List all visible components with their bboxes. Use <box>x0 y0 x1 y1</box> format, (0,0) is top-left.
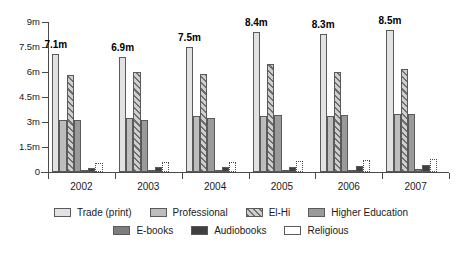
bar-trade-print <box>320 34 327 172</box>
legend-item[interactable]: El-Hi <box>246 207 291 218</box>
legend-item-label: Religious <box>307 225 348 236</box>
bar-value-label: 7.5m <box>173 32 205 43</box>
legend-item[interactable]: Trade (print) <box>54 207 132 218</box>
bar-higher-education <box>408 114 415 172</box>
bar-el-hi <box>67 75 74 172</box>
legend-row-secondary: E-booksAudiobooksReligious <box>0 222 462 239</box>
bar-value-label: 8.4m <box>240 17 272 28</box>
x-axis-tick-label: 2005 <box>256 181 308 192</box>
legend-item-label: E-books <box>136 225 173 236</box>
x-axis-line <box>41 172 449 173</box>
bar-professional <box>193 116 200 172</box>
x-axis-tick <box>249 173 250 179</box>
bar-religious <box>430 159 437 172</box>
bar-professional <box>394 114 401 172</box>
legend-item[interactable]: E-books <box>113 225 173 236</box>
legend-item[interactable]: Audiobooks <box>191 225 266 236</box>
bar-el-hi <box>200 74 207 172</box>
legend-item-label: Higher Education <box>331 207 408 218</box>
bar-trade-print <box>119 57 126 172</box>
bar-audiobooks <box>422 165 429 172</box>
bar-higher-education <box>74 120 81 172</box>
legend-item-label: Professional <box>173 207 228 218</box>
legend-item-label: El-Hi <box>269 207 291 218</box>
bar-religious <box>296 161 303 172</box>
legend-item[interactable]: Religious <box>284 225 348 236</box>
bar-ebooks <box>148 170 155 172</box>
legend-item-label: Audiobooks <box>214 225 266 236</box>
chart-legend: Trade (print)ProfessionalEl-HiHigher Edu… <box>0 200 462 250</box>
plot-area: 01.5m3m4.5m6m7.5m9m 20022003200420052006… <box>0 0 462 196</box>
elhi-swatch <box>246 208 263 217</box>
legend-row-primary: Trade (print)ProfessionalEl-HiHigher Edu… <box>0 204 462 221</box>
bar-chart: 01.5m3m4.5m6m7.5m9m 20022003200420052006… <box>0 0 462 253</box>
x-axis-tick <box>382 173 383 179</box>
trade-swatch <box>54 208 71 217</box>
bar-value-label: 8.5m <box>374 15 406 26</box>
x-axis-tick-label: 2007 <box>390 181 442 192</box>
x-axis-tick <box>182 173 183 179</box>
x-axis-tick <box>449 173 450 179</box>
bar-trade-print <box>52 54 59 172</box>
bar-value-label: 6.9m <box>107 42 139 53</box>
bar-audiobooks <box>356 166 363 172</box>
bar-higher-education <box>207 118 214 172</box>
bar-audiobooks <box>222 167 229 172</box>
legend-item[interactable]: Higher Education <box>308 207 408 218</box>
x-axis-tick-label: 2003 <box>122 181 174 192</box>
professional-swatch <box>150 208 167 217</box>
religious-swatch <box>284 226 301 235</box>
bar-el-hi <box>334 72 341 172</box>
bar-religious <box>162 162 169 172</box>
x-axis-tick <box>315 173 316 179</box>
bar-religious <box>95 163 102 172</box>
bar-professional <box>327 116 334 172</box>
bar-audiobooks <box>289 167 296 172</box>
x-axis-tick <box>115 173 116 179</box>
bar-trade-print <box>186 47 193 172</box>
bar-higher-education <box>274 115 281 172</box>
bar-higher-education <box>341 115 348 172</box>
bar-value-label: 8.3m <box>307 19 339 30</box>
bar-ebooks <box>81 170 88 172</box>
bar-ebooks <box>348 170 355 173</box>
x-axis-tick <box>48 173 49 179</box>
bar-professional <box>260 116 267 172</box>
bar-religious <box>229 162 236 172</box>
bar-audiobooks <box>155 167 162 172</box>
bar-religious <box>363 160 370 172</box>
bar-ebooks <box>215 170 222 172</box>
x-axis-tick-label: 2002 <box>55 181 107 192</box>
bar-professional <box>59 120 66 173</box>
higher-education-swatch <box>308 208 325 217</box>
x-axis-tick-label: 2006 <box>323 181 375 192</box>
audiobooks-swatch <box>191 226 208 235</box>
bar-el-hi <box>133 72 140 172</box>
bar-audiobooks <box>88 168 95 172</box>
legend-item-label: Trade (print) <box>77 207 132 218</box>
ebooks-swatch <box>113 226 130 235</box>
bar-professional <box>126 118 133 172</box>
bar-ebooks <box>415 169 422 172</box>
bar-higher-education <box>141 120 148 173</box>
bar-el-hi <box>267 64 274 172</box>
x-axis-tick-label: 2004 <box>189 181 241 192</box>
legend-item[interactable]: Professional <box>150 207 228 218</box>
bar-value-label: 7.1m <box>40 39 72 50</box>
bar-trade-print <box>386 30 393 172</box>
bar-trade-print <box>253 32 260 172</box>
bar-ebooks <box>282 170 289 172</box>
bar-el-hi <box>401 69 408 172</box>
